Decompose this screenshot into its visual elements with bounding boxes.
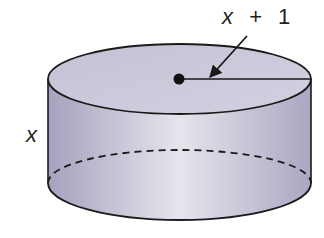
- radius-label-op: +: [249, 4, 262, 29]
- height-label: x: [25, 122, 38, 147]
- cylinder-diagram: x + 1 x: [0, 0, 324, 238]
- radius-label-num: 1: [278, 4, 290, 29]
- radius-label: x + 1: [221, 4, 290, 29]
- center-point: [174, 74, 185, 85]
- radius-label-var: x: [221, 4, 234, 29]
